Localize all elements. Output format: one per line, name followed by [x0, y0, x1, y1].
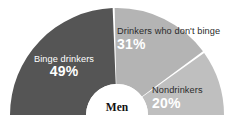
semicircle-donut-chart: Binge drinkers 49% Drinkers who don't bi…	[0, 0, 234, 127]
donut-chart-graphic	[0, 0, 234, 127]
